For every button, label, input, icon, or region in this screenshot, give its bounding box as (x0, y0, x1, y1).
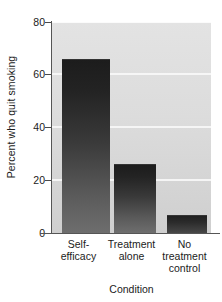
y-axis-tick-labels: 80 60 40 20 0 (22, 0, 45, 302)
bar-no-treatment-control[interactable] (167, 215, 207, 233)
y-tick-label-20: 20 (23, 175, 45, 185)
bar-self-efficacy[interactable] (62, 59, 110, 233)
bar-treatment-alone[interactable] (114, 164, 156, 233)
y-axis-title: Percent who quit smoking (0, 0, 22, 233)
x-tick-label-no-treatment-control: No treatment control (158, 238, 211, 278)
x-axis-title: Condition (52, 283, 211, 295)
y-axis-title-text: Percent who quit smoking (5, 55, 17, 178)
y-tick-label-40: 40 (23, 122, 45, 132)
x-axis-spine (40, 233, 220, 234)
y-tick-label-80: 80 (23, 17, 45, 27)
x-axis-tick-labels: Self- efficacy Treatment alone No treatm… (52, 238, 211, 278)
x-tick-label-self-efficacy: Self- efficacy (52, 238, 105, 278)
y-tick-label-60: 60 (23, 69, 45, 79)
x-tick-label-treatment-alone: Treatment alone (105, 238, 158, 278)
plot-area (52, 22, 211, 233)
bar-chart-figure: Percent who quit smoking 80 60 40 20 0 S… (0, 0, 222, 302)
y-axis-spine (51, 21, 52, 234)
